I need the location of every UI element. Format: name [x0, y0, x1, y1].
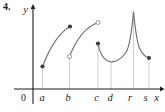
tick-label-c: c — [94, 92, 99, 103]
closed-endpoint-dot-a — [40, 64, 44, 68]
closed-endpoint-dot-b-top — [68, 24, 72, 28]
y-axis-arrowhead-icon — [31, 4, 36, 9]
figure-canvas: 4. y x 0 a b c d r s — [0, 0, 165, 112]
origin-label: 0 — [21, 92, 26, 103]
y-axis-label: y — [22, 4, 28, 15]
curve-segment-2 — [70, 23, 99, 57]
problem-number: 4. — [3, 1, 11, 12]
tick-label-d: d — [107, 92, 113, 103]
curve-segment-1 — [43, 27, 71, 67]
tick-label-r: r — [128, 92, 133, 103]
tick-label-b: b — [65, 92, 70, 103]
tick-label-a: a — [39, 92, 44, 103]
open-endpoint-dot-c — [96, 21, 100, 25]
x-axis-arrowhead-icon — [160, 87, 165, 92]
curve-segment-3 — [98, 12, 149, 62]
closed-endpoint-dot-s — [147, 56, 151, 60]
x-axis-label: x — [153, 92, 159, 103]
open-endpoint-dot-b — [68, 55, 72, 59]
closed-endpoint-dot-c — [96, 41, 100, 45]
tick-label-s: s — [143, 92, 147, 103]
textbook-figure: 4. y x 0 a b c d r s — [0, 0, 165, 112]
